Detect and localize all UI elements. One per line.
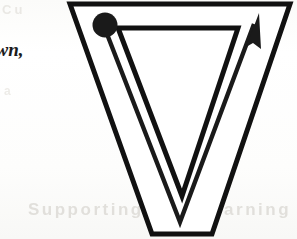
scanned-page: Cu a Supporting your learning own, p [0,0,297,239]
stroke-start-dot-icon [93,13,118,38]
letter-v-stroke-order-diagram [0,0,297,239]
